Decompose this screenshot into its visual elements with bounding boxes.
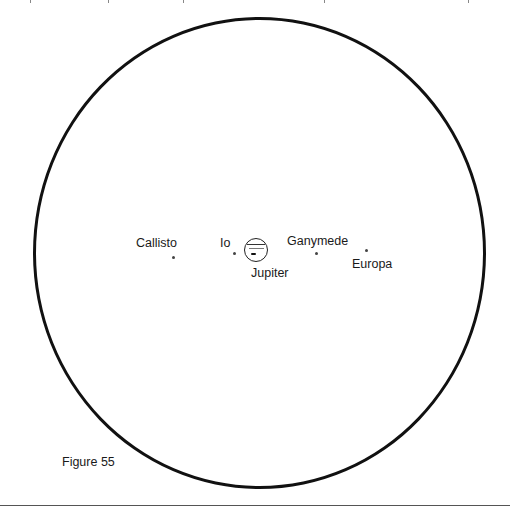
jupiter-band <box>247 244 265 245</box>
figure-caption: Figure 55 <box>62 455 115 469</box>
moon-dot-callisto <box>172 256 175 259</box>
cropped-text-line <box>0 0 510 3</box>
moon-dot-io <box>233 252 236 255</box>
jupiter-disk <box>244 238 268 262</box>
moon-label-callisto: Callisto <box>136 236 177 250</box>
moon-label-ganymede: Ganymede <box>287 234 348 248</box>
moon-dot-ganymede <box>315 252 318 255</box>
jupiter-spot <box>251 253 256 255</box>
planet-label-jupiter: Jupiter <box>251 266 289 280</box>
moon-label-europa: Europa <box>352 257 392 271</box>
divider <box>0 505 510 506</box>
jupiter-band <box>249 248 264 249</box>
moon-dot-europa <box>365 249 368 252</box>
moon-label-io: Io <box>220 236 230 250</box>
